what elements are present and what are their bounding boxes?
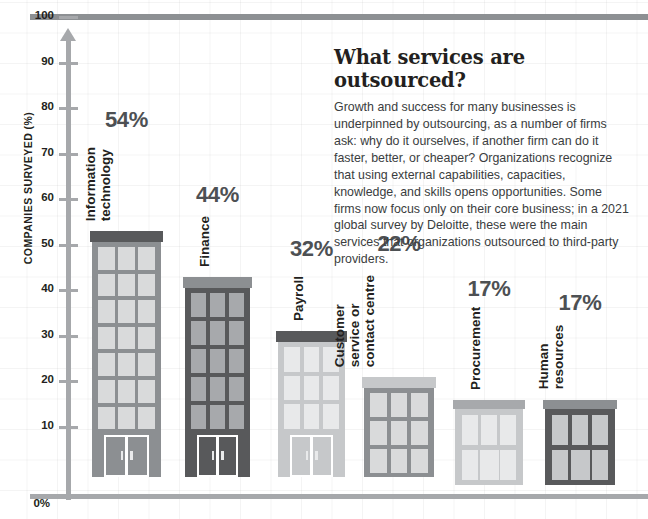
building-graphic [455,400,523,477]
building-graphic [92,231,161,477]
window-row [284,404,339,429]
window-row [191,321,244,345]
window-row [462,415,516,445]
panel-body-text: Growth and success for many businesses i… [334,99,630,268]
window-row [462,450,516,480]
y-axis-tick-label: 70 [14,146,54,158]
building-roof [543,400,617,409]
building-entrance [284,433,339,477]
building-window [98,300,115,323]
bar-procurement[interactable]: 17%Procurement [455,400,523,477]
building-window [323,404,339,429]
building-window [552,415,568,445]
bar-category-line: service or [347,275,362,367]
building-window [370,421,387,445]
building-window [210,321,225,345]
building-window [191,377,206,401]
building-window [370,449,387,473]
bar-customer-service-or-contact-centre[interactable]: 22%Customerservice orcontact centre [364,377,434,477]
building-door [104,435,149,477]
bar-human-resources[interactable]: 17%Humanresources [545,400,615,477]
building-window [284,404,300,429]
building-roof [90,231,163,242]
building-window [98,274,115,297]
building-window [98,327,115,350]
y-axis-tick [59,62,78,65]
building-body [455,409,523,485]
bar-value-label: 32% [290,236,333,262]
clipped-header-text [180,0,480,8]
y-axis-tick-label: 50 [14,237,54,249]
bar-category-line: Procurement [468,306,483,389]
bar-category-label: Procurement [468,306,483,389]
door-handle-icon [306,451,309,460]
building-window [552,450,568,480]
bar-category-line: contact centre [362,275,377,367]
building-window [592,415,608,445]
building-window [191,321,206,345]
y-axis-tick-label: 100 [14,9,54,21]
building-door [480,450,499,480]
bar-category-label: Customerservice orcontact centre [332,275,377,367]
building-window [304,376,320,401]
y-axis-tick [59,244,78,247]
building-window [391,449,408,473]
building-window [284,376,300,401]
y-axis-tick [59,198,78,201]
building-body [364,388,434,477]
building-window [118,353,135,376]
y-axis-tick [59,426,78,429]
y-axis-tick [59,289,78,292]
bar-category-line: Payroll [290,276,305,321]
building-window [138,327,155,350]
building-window [284,347,300,372]
window-row [191,293,244,317]
bar-category-line: resources [551,325,566,390]
window-row [191,377,244,401]
y-axis-tick [59,107,78,110]
door-handle-icon [221,451,224,460]
building-window [391,421,408,445]
bar-value-label: 17% [467,276,510,302]
building-window [191,293,206,317]
building-window [391,393,408,417]
building-window [411,393,428,417]
bar-information-technology[interactable]: 54%Informationtechnology [92,231,161,477]
building-window [98,247,115,270]
door-handle-icon [315,451,318,460]
building-window [229,377,244,401]
building-door [290,435,333,477]
window-row [98,274,155,297]
building-window [370,393,387,417]
y-axis-tick-label: 80 [14,100,54,112]
building-window [210,377,225,401]
building-window [98,380,115,403]
building-window [572,415,588,445]
window-row [98,380,155,403]
building-window [481,415,497,445]
window-row [552,415,608,445]
building-window [138,300,155,323]
door-handle-icon [212,451,215,460]
y-axis-tick [59,380,78,383]
window-row [98,353,155,376]
window-row [370,393,428,417]
bar-value-label: 44% [196,182,239,208]
y-axis-tick-label: 60 [14,191,54,203]
bar-category-line: Information [82,147,97,221]
building-roof [183,277,252,288]
building-window [304,347,320,372]
building-window [229,293,244,317]
x-axis-baseline [30,494,648,499]
building-graphic [545,400,615,477]
building-window [191,405,206,429]
building-window [229,321,244,345]
bar-finance[interactable]: 44%Finance [185,277,250,477]
building-window [462,415,478,445]
building-window [118,300,135,323]
window-row [98,407,155,430]
bar-value-label: 17% [558,290,601,316]
building-window [118,247,135,270]
building-window [98,407,115,430]
building-window [462,450,478,480]
